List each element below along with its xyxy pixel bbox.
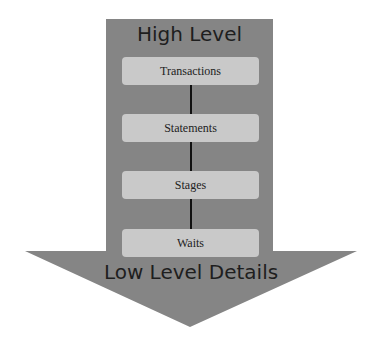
level-box-transactions: Transactions [122,57,259,85]
high-level-label: High Level [106,21,273,47]
low-level-details-label: Low Level Details [60,259,322,285]
connector-line [190,142,192,171]
level-box-statements: Statements [122,114,259,142]
level-box-waits: Waits [122,229,259,257]
connector-line [190,85,192,114]
level-box-stages: Stages [122,171,259,199]
hierarchy-diagram: High Level Transactions Statements Stage… [0,0,375,342]
connector-line [190,199,192,229]
